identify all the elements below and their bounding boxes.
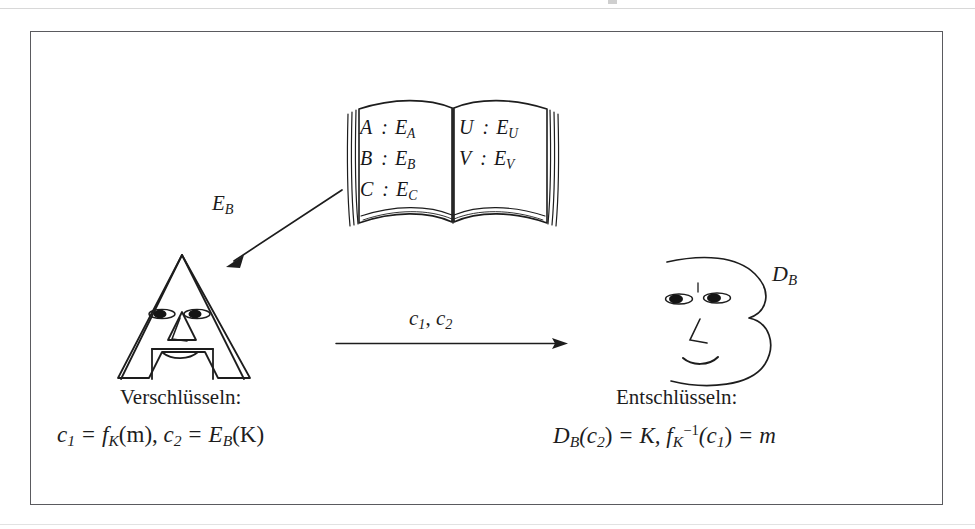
book-entry-sep: :: [381, 147, 388, 169]
book-entry-key: E: [496, 116, 508, 138]
face-mouth: [683, 357, 718, 364]
decrypt-formula: DB(c2)=K, fK−1(c1)=m: [553, 423, 776, 450]
book-entry-key-sub: V: [506, 157, 514, 172]
alice-letter-a-face: [110, 252, 290, 384]
decrypt-caption: Entschlüsseln:: [616, 387, 737, 408]
book-entry-row: U:EU: [459, 117, 518, 140]
book-entry-id: A: [360, 116, 372, 138]
book-entry-key: E: [395, 147, 407, 169]
alice-to-bob-arrow: [334, 334, 574, 354]
bob-decrypt-key-label: DB: [772, 263, 797, 288]
scan-artifact-bottom: [0, 524, 975, 525]
book-entry-sep: :: [381, 116, 388, 138]
book-entry-key: E: [395, 116, 407, 138]
book-entry-key-sub: U: [508, 126, 518, 141]
face-eyes: [666, 293, 731, 304]
book-entry-sep: :: [482, 116, 489, 138]
encrypt-formula: c1=fK(m), c2=EB(K): [57, 423, 264, 449]
book-entry-row: B:EB: [360, 148, 415, 171]
book-entry-key: E: [494, 147, 506, 169]
book-entry-row: A:EA: [360, 117, 415, 140]
book-entry-key-sub: B: [407, 157, 415, 172]
transmit-arrow-label: c1, c2: [409, 308, 452, 331]
scan-artifact-tick: [608, 0, 617, 4]
encrypt-caption: Verschlüsseln:: [120, 387, 241, 408]
book-entry-row: C:EC: [360, 179, 417, 202]
face-mouth: [163, 352, 198, 358]
figure-canvas: A:EA B:EB C:EC U:EU V:EV EB: [0, 0, 975, 529]
book-entry-sep: :: [382, 178, 389, 200]
book-entry-sep: :: [480, 147, 487, 169]
book-entry-id: C: [360, 178, 373, 200]
lookup-arrow-label: EB: [212, 193, 234, 216]
book-entry-id: V: [459, 147, 471, 169]
book-entry-key-sub: C: [408, 188, 417, 203]
book-entry-row: V:EV: [459, 148, 514, 171]
face-nose: [690, 319, 707, 343]
scan-artifact-top: [0, 8, 975, 9]
book-entry-key: E: [396, 178, 408, 200]
book-entry-id: B: [360, 147, 372, 169]
book-entry-id: U: [459, 116, 473, 138]
book-entry-key-sub: A: [407, 126, 415, 141]
